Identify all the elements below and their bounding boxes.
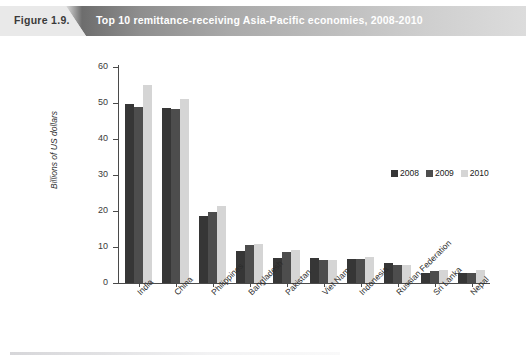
bar-2009 <box>319 260 328 283</box>
bar-2008 <box>199 216 208 283</box>
bar-2009 <box>208 212 217 283</box>
bar-2009 <box>282 252 291 283</box>
y-axis-tick-label: 10 <box>86 241 108 251</box>
bar-2009 <box>393 265 402 283</box>
bar-2010 <box>143 85 152 283</box>
legend-swatch-icon <box>461 170 468 177</box>
legend-label: 2010 <box>470 168 489 178</box>
legend-label: 2008 <box>400 168 419 178</box>
bar-group <box>347 67 374 283</box>
bar-2009 <box>134 107 143 283</box>
y-axis-tick-label: 20 <box>86 205 108 215</box>
legend-item-2008: 2008 <box>391 168 419 178</box>
source-note-cutoff <box>10 352 340 355</box>
bar-group <box>125 67 152 283</box>
legend-item-2010: 2010 <box>461 168 489 178</box>
bar-group <box>310 67 337 283</box>
chart-legend: 200820092010 <box>391 168 489 178</box>
bar-2008 <box>125 104 134 283</box>
y-axis-tick-label: 40 <box>86 133 108 143</box>
bar-group <box>162 67 189 283</box>
figure-number-label: Figure 1.9. <box>14 14 70 26</box>
bar-group <box>199 67 226 283</box>
bar-2009 <box>430 271 439 283</box>
bar-2008 <box>162 108 171 283</box>
y-axis-tick-label: 0 <box>86 277 108 287</box>
legend-swatch-icon <box>426 170 433 177</box>
bar-2008 <box>310 258 319 283</box>
bar-2009 <box>245 245 254 283</box>
bar-group <box>236 67 263 283</box>
legend-swatch-icon <box>391 170 398 177</box>
figure-title: Top 10 remittance-receiving Asia-Pacific… <box>96 14 423 26</box>
y-axis-tick-label: 50 <box>86 97 108 107</box>
y-axis-tick <box>113 283 118 284</box>
bar-2009 <box>356 259 365 283</box>
bar-2010 <box>180 99 189 283</box>
legend-item-2009: 2009 <box>426 168 454 178</box>
chart-container: Billions of US dollars 0102030405060 Ind… <box>0 40 526 350</box>
y-axis-tick-label: 30 <box>86 169 108 179</box>
bar-group <box>273 67 300 283</box>
y-axis-title: Billions of US dollars <box>49 90 59 210</box>
figure-header-banner: Figure 1.9. Top 10 remittance-receiving … <box>0 6 526 36</box>
bar-2009 <box>171 109 180 283</box>
legend-label: 2009 <box>435 168 454 178</box>
bar-2010 <box>217 206 226 283</box>
y-axis-tick-label: 60 <box>86 61 108 71</box>
